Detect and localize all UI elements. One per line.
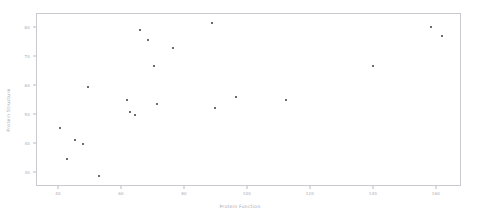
data-point	[98, 175, 100, 177]
x-tick-mark	[372, 186, 373, 189]
data-point	[129, 111, 131, 113]
y-tick-mark	[33, 56, 36, 57]
data-point	[153, 65, 155, 67]
scatter-chart: 406080100120140160 304050607080 Protein …	[0, 0, 480, 220]
data-point	[134, 114, 136, 116]
x-tick-mark	[58, 186, 59, 189]
data-point	[87, 86, 89, 88]
data-point	[211, 22, 213, 24]
x-tick-mark	[435, 186, 436, 189]
y-tick-label: 70	[25, 54, 31, 59]
data-point	[372, 65, 374, 67]
plot-area	[36, 13, 461, 186]
data-point	[430, 26, 432, 28]
x-tick-label: 160	[432, 191, 440, 196]
y-tick-mark	[33, 142, 36, 143]
x-tick-mark	[121, 186, 122, 189]
y-tick-label: 50	[25, 111, 31, 116]
y-tick-mark	[33, 85, 36, 86]
y-tick-label: 40	[25, 140, 31, 145]
data-point	[66, 158, 68, 160]
data-point	[147, 39, 149, 41]
x-tick-label: 140	[369, 191, 377, 196]
y-tick-label: 80	[25, 25, 31, 30]
data-point	[126, 99, 128, 101]
y-axis-title: Protein Structure	[6, 88, 11, 131]
data-point	[235, 96, 237, 98]
x-tick-label: 100	[243, 191, 251, 196]
data-point	[156, 103, 158, 105]
data-point	[59, 127, 61, 129]
y-tick-mark	[33, 171, 36, 172]
y-tick-label: 60	[25, 83, 31, 88]
data-point	[172, 47, 174, 49]
data-point	[74, 139, 76, 141]
x-tick-label: 40	[55, 191, 61, 196]
y-tick-mark	[33, 113, 36, 114]
x-tick-label: 80	[181, 191, 187, 196]
data-point	[214, 107, 216, 109]
x-tick-mark	[183, 186, 184, 189]
data-point	[82, 143, 84, 145]
data-point	[285, 99, 287, 101]
x-tick-label: 60	[118, 191, 124, 196]
x-tick-mark	[309, 186, 310, 189]
x-tick-mark	[246, 186, 247, 189]
data-point	[441, 35, 443, 37]
x-axis-title: Protein Function	[0, 204, 480, 209]
x-tick-label: 120	[306, 191, 314, 196]
data-point	[139, 29, 141, 31]
y-tick-label: 30	[25, 169, 31, 174]
y-tick-mark	[33, 27, 36, 28]
